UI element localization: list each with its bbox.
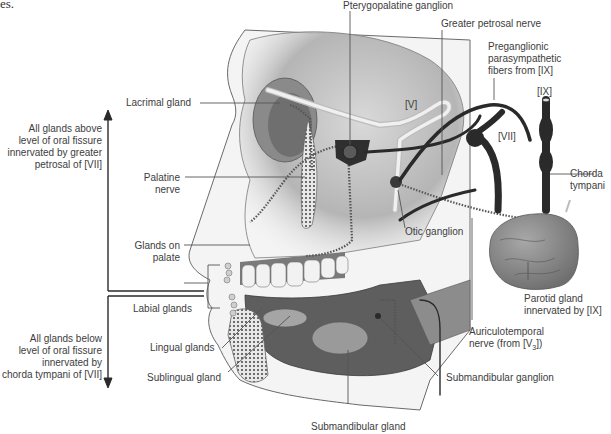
submandibular-ganglion-shape	[375, 313, 381, 319]
parotid-line-1: Parotid gland	[524, 293, 602, 305]
palate-line-1: Glands on	[128, 240, 180, 252]
auriculotemporal-text: nerve (from [V	[469, 338, 532, 349]
label-lacrimal-gland: Lacrimal gland	[126, 97, 191, 109]
upper-note-line-1: All glands above	[2, 123, 102, 135]
submandibular-gland-shape	[312, 322, 368, 354]
chorda-line-1: Chorda	[570, 168, 605, 180]
geniculate-ganglion	[466, 129, 484, 147]
upper-note-line-2: level of oral fissure	[2, 135, 102, 147]
parotid-gland-shape	[490, 200, 579, 289]
lower-glands-note: All glands below level of oral fissure i…	[0, 333, 102, 381]
label-submandibular-gland: Submandibular gland	[311, 421, 406, 433]
label-pterygopalatine-ganglion: Pterygopalatine ganglion	[343, 0, 453, 12]
label-parotid-gland: Parotid gland innervated by [IX]	[524, 293, 602, 317]
label-cn-vii: [VII]	[498, 131, 516, 143]
parotid-line-2: innervated by [IX]	[524, 305, 602, 317]
auriculotemporal-line-1: Auriculotemporal	[469, 326, 544, 338]
auriculotemporal-close: ])	[536, 338, 542, 349]
upper-note-line-4: petrosal of [VII]	[2, 159, 102, 171]
glossopharyngeal-trunk	[539, 98, 553, 210]
label-labial-glands: Labial glands	[133, 303, 192, 315]
lower-note-line-2: level of oral fissure	[0, 345, 102, 357]
label-lingual-glands: Lingual glands	[150, 342, 215, 354]
lower-note-line-1: All glands below	[0, 333, 102, 345]
label-sublingual-gland: Sublingual gland	[147, 372, 221, 384]
label-glands-on-palate: Glands on palate	[128, 240, 180, 264]
label-cn-ix: [IX]	[537, 86, 552, 98]
upper-note-line-3: innervated by greater	[2, 147, 102, 159]
label-cn-v: [V]	[405, 99, 417, 111]
label-otic-ganglion: Otic ganglion	[405, 226, 463, 238]
auriculotemporal-line-2: nerve (from [V3])	[469, 338, 544, 354]
label-chorda-tympani: Chorda tympani	[570, 168, 605, 192]
label-auriculotemporal-nerve: Auriculotemporal nerve (from [V3])	[469, 326, 544, 354]
preganglionic-line-1: Preganglionic	[488, 41, 561, 53]
label-palatine-nerve: Palatine nerve	[130, 172, 180, 196]
lower-note-line-4: chorda tympani of [VII]	[0, 369, 102, 381]
chorda-line-2: tympani	[570, 180, 605, 192]
lower-note-line-3: innervated by	[0, 357, 102, 369]
palate-line-2: palate	[128, 252, 180, 264]
preganglionic-line-3: fibers from [IX]	[488, 65, 561, 77]
label-submandibular-ganglion: Submandibular ganglion	[446, 372, 554, 384]
preganglionic-line-2: parasympathetic	[488, 53, 561, 65]
palatine-line-1: Palatine	[130, 172, 180, 184]
label-preganglionic-fibers: Preganglionic parasympathetic fibers fro…	[488, 41, 561, 77]
upper-glands-note: All glands above level of oral fissure i…	[2, 123, 102, 171]
palatine-line-2: nerve	[130, 184, 180, 196]
label-greater-petrosal-nerve: Greater petrosal nerve	[441, 18, 541, 30]
